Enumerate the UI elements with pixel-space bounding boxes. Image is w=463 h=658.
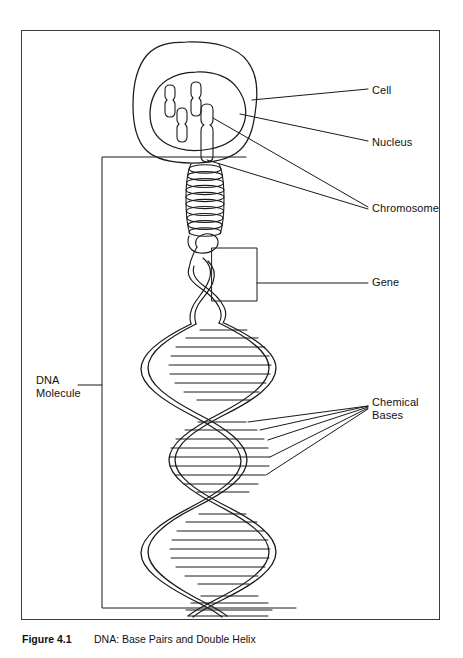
label-dna-molecule: DNA Molecule xyxy=(36,374,81,400)
figure-caption-text: DNA: Base Pairs and Double Helix xyxy=(94,633,256,645)
figure-caption-number: Figure 4.1 xyxy=(22,633,94,645)
label-chemical-bases: Chemical Bases xyxy=(372,396,419,422)
figure-root: Cell Nucleus Chromosome Gene Chemical Ba… xyxy=(0,0,463,658)
label-nucleus: Nucleus xyxy=(372,136,412,149)
label-cell: Cell xyxy=(372,84,391,97)
label-chromosome: Chromosome xyxy=(372,202,439,215)
figure-caption: Figure 4.1 DNA: Base Pairs and Double He… xyxy=(22,633,442,645)
label-gene: Gene xyxy=(372,276,399,289)
